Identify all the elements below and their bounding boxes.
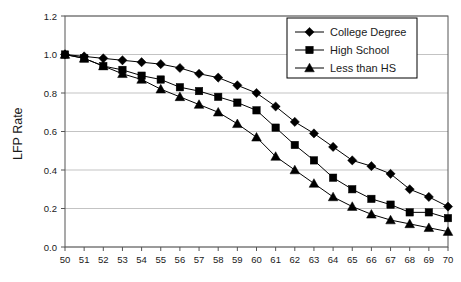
legend-label: Less than HS (330, 62, 396, 74)
legend-label: High School (330, 44, 389, 56)
data-point-diamond (309, 129, 318, 138)
y-axis-title-group: LFP Rate (11, 107, 25, 160)
data-point-square (291, 141, 298, 148)
x-tick-label: 58 (213, 254, 224, 265)
x-tick-label: 54 (136, 254, 147, 265)
data-point-diamond (118, 56, 127, 65)
x-tick-label: 53 (117, 254, 128, 265)
data-point-diamond (156, 60, 165, 69)
x-tick-label: 52 (98, 254, 109, 265)
data-point-square (310, 157, 317, 164)
x-tick-label: 60 (251, 254, 262, 265)
x-tick-label: 66 (366, 254, 377, 265)
x-tick-label: 59 (232, 254, 243, 265)
x-tick-label: 61 (270, 254, 281, 265)
data-point-square (406, 209, 413, 216)
data-point-square (368, 195, 375, 202)
x-tick-label: 62 (290, 254, 301, 265)
x-tick-label: 69 (424, 254, 435, 265)
data-point-diamond (137, 58, 146, 67)
y-tick-label: 0.6 (44, 126, 57, 137)
data-point-diamond (443, 202, 452, 211)
data-point-diamond (252, 88, 261, 97)
data-point-triangle (309, 179, 319, 188)
legend: College DegreeHigh SchoolLess than HS (287, 18, 417, 78)
x-tick-label: 51 (79, 254, 90, 265)
x-tick-marks (65, 247, 448, 251)
x-tick-label: 64 (328, 254, 339, 265)
y-tick-labels: 0.00.20.40.60.81.01.2 (44, 11, 57, 253)
x-tick-label: 63 (309, 254, 320, 265)
data-point-square (444, 214, 451, 221)
data-point-square (176, 84, 183, 91)
line-chart: 0.00.20.40.60.81.01.2 505152535455565758… (0, 0, 461, 282)
y-axis-title: LFP Rate (11, 107, 25, 160)
x-tick-label: 67 (385, 254, 396, 265)
x-tick-label: 57 (194, 254, 205, 265)
data-point-square (215, 93, 222, 100)
data-point-square (425, 209, 432, 216)
data-point-square (387, 201, 394, 208)
data-point-diamond (214, 73, 223, 82)
x-tick-label: 68 (404, 254, 415, 265)
data-point-triangle (328, 192, 338, 201)
data-point-square (349, 186, 356, 193)
data-point-diamond (233, 81, 242, 90)
data-point-square (253, 107, 260, 114)
data-point-triangle (252, 132, 262, 141)
chart-container: 0.00.20.40.60.81.01.2 505152535455565758… (0, 0, 461, 282)
x-tick-label: 56 (175, 254, 186, 265)
x-tick-label: 70 (443, 254, 454, 265)
y-tick-label: 0.4 (44, 165, 57, 176)
x-tick-label: 50 (60, 254, 71, 265)
legend-label: College Degree (330, 26, 406, 38)
data-point-diamond (329, 142, 338, 151)
data-point-square (272, 124, 279, 131)
y-tick-label: 0.0 (44, 242, 57, 253)
y-tick-label: 0.8 (44, 88, 57, 99)
y-tick-label: 1.2 (44, 11, 57, 22)
data-point-triangle (233, 119, 243, 128)
data-point-triangle (156, 84, 166, 93)
data-point-triangle (290, 165, 300, 174)
x-tick-label: 55 (155, 254, 166, 265)
x-tick-labels: 5051525354555657585960616263646566676869… (60, 254, 454, 265)
data-point-triangle (367, 209, 377, 218)
data-point-square (329, 174, 336, 181)
data-point-square (195, 87, 202, 94)
data-point-diamond (175, 63, 184, 72)
data-point-square (157, 76, 164, 83)
y-tick-label: 0.2 (44, 203, 57, 214)
data-point-triangle (213, 107, 223, 116)
data-point-diamond (424, 192, 433, 201)
data-point-diamond (367, 162, 376, 171)
data-point-square (234, 99, 241, 106)
data-point-diamond (348, 156, 357, 165)
y-tick-label: 1.0 (44, 49, 57, 60)
data-point-square (306, 46, 313, 53)
x-tick-label: 65 (347, 254, 358, 265)
data-point-triangle (194, 100, 204, 109)
data-point-triangle (347, 202, 357, 211)
data-point-diamond (194, 69, 203, 78)
